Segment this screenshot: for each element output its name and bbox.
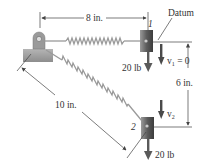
dimension-8in: 8 in.	[40, 12, 148, 30]
position-1-label: 1	[148, 19, 153, 29]
block-1-pin	[144, 39, 147, 42]
weight-1-label: 20 lb	[122, 63, 142, 73]
velocity-arrow-2	[158, 100, 165, 119]
pin-support	[23, 32, 53, 62]
velocity-2-label: v2	[167, 109, 175, 120]
block-2-pin	[145, 124, 148, 127]
label-8in: 8 in.	[86, 13, 103, 23]
weight-arrow-2	[144, 139, 153, 160]
spring-diagonal	[46, 50, 142, 121]
weight-2-label: 20 lb	[155, 150, 175, 160]
position-2-label: 2	[131, 122, 136, 132]
velocity-1-label: v1 = 0	[167, 56, 190, 67]
datum-label: Datum	[168, 8, 194, 18]
velocity-arrow-1	[158, 44, 165, 65]
spring-block-diagram: 8 in. 1 Datum 20 lb v1 = 0 6 in.	[0, 0, 209, 163]
weight-arrow-1	[144, 52, 153, 72]
label-6in: 6 in.	[176, 78, 193, 88]
datum-leader	[158, 18, 172, 40]
label-10in: 10 in.	[55, 100, 77, 110]
spring-horizontal	[41, 38, 141, 44]
